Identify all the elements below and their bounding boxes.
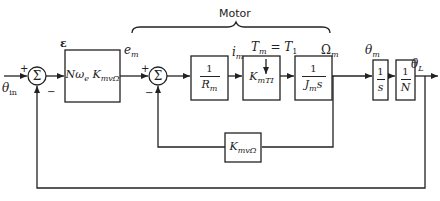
integrator-gain: 1 s — [373, 60, 388, 100]
input-label: θin — [2, 82, 17, 97]
output-label: θL — [411, 58, 424, 73]
inertia-gain: 1 Jms — [295, 56, 332, 100]
backemf-gain: KmvΩ — [225, 133, 261, 162]
motor-title: Motor — [219, 8, 251, 19]
sum1-symbol: Σ — [28, 67, 46, 85]
torque-label: Tm = T1 — [251, 41, 297, 56]
torque-constant-gain: KmTI — [243, 56, 280, 100]
motor-brace — [132, 22, 330, 33]
sum2-symbol: Σ — [149, 67, 167, 85]
amplifier-gain: Nωe KmvΩ — [65, 50, 120, 102]
sum2-minus-sign: − — [145, 88, 153, 98]
im-label: im — [232, 46, 243, 61]
em-label: em — [124, 44, 139, 59]
sum1-minus-sign: − — [47, 87, 55, 97]
omega-label: Ωm — [321, 44, 339, 59]
error-label: ε — [60, 38, 67, 49]
resistance-gain: 1 Rm — [191, 56, 228, 100]
theta-m-label: θm — [365, 44, 380, 59]
